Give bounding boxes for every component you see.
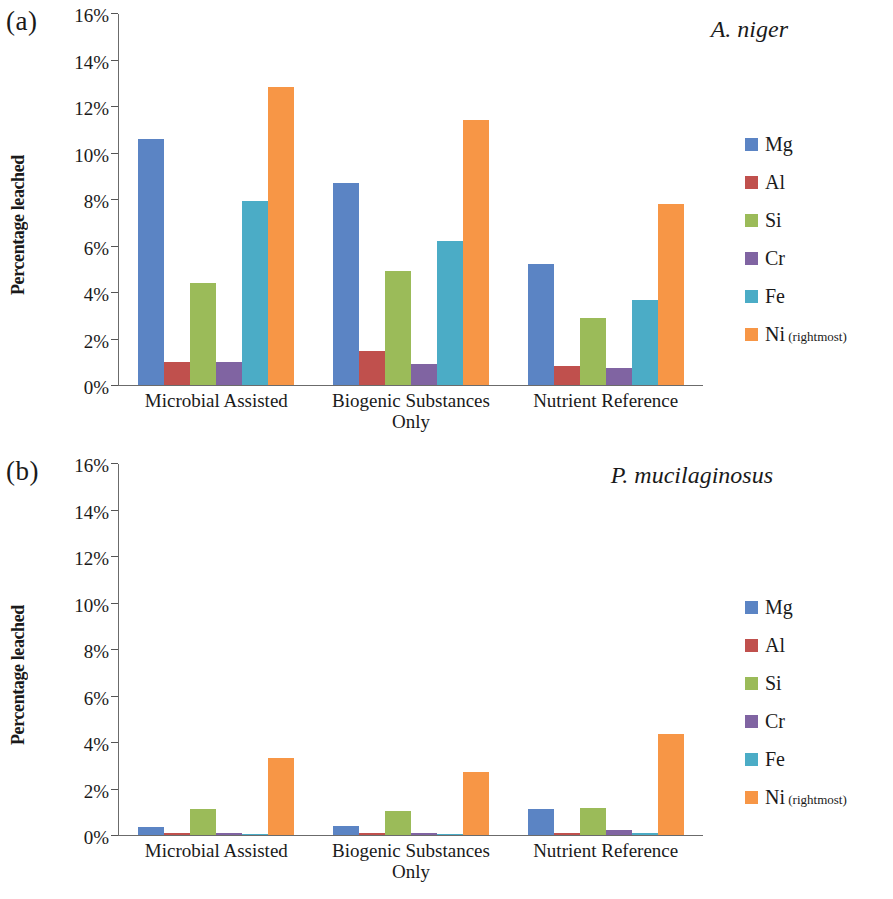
x-axis-category-labels-a: Microbial AssistedBiogenic Substances On… [119, 390, 703, 433]
legend-item-al[interactable]: Al [745, 163, 885, 201]
legend-swatch-icon [745, 328, 758, 341]
x-axis-line [118, 835, 703, 836]
panel-label-b: (b) [6, 456, 39, 487]
bar-cr[interactable] [606, 830, 632, 835]
y-axis-tick-mark [111, 292, 118, 293]
bar-fe[interactable] [437, 834, 463, 835]
y-axis-tick-label: 14% [74, 52, 118, 73]
bar-al[interactable] [359, 833, 385, 835]
bar-si[interactable] [385, 811, 411, 835]
legend-swatch-icon [745, 176, 758, 189]
y-axis-tick-label: 6% [84, 688, 118, 709]
legend-item-fe[interactable]: Fe [745, 277, 885, 315]
legend-swatch-icon [745, 753, 758, 766]
bar-group [314, 464, 509, 835]
y-axis-tick-label: 16% [74, 455, 118, 476]
legend-item-al[interactable]: Al [745, 626, 885, 664]
y-axis-tick: 2% [40, 331, 118, 349]
bar-al[interactable] [164, 362, 190, 385]
bar-mg[interactable] [528, 809, 554, 835]
bar-mg[interactable] [333, 826, 359, 835]
bar-al[interactable] [359, 351, 385, 385]
y-axis-tick-mark [111, 696, 118, 697]
legend-label: Ni (rightmost) [765, 786, 847, 809]
bar-ni[interactable] [658, 204, 684, 385]
legend-label: Si [765, 672, 782, 695]
legend-item-cr[interactable]: Cr [745, 702, 885, 740]
x-axis-category-label: Nutrient Reference [508, 390, 703, 433]
y-axis-tick: 14% [40, 502, 118, 520]
y-axis-tick: 16% [40, 5, 118, 23]
legend-item-si[interactable]: Si [745, 664, 885, 702]
legend-swatch-icon [745, 214, 758, 227]
y-axis-tick-label: 4% [84, 734, 118, 755]
bar-si[interactable] [190, 809, 216, 835]
y-axis-tick-label: 8% [84, 191, 118, 212]
bar-si[interactable] [190, 283, 216, 385]
bar-ni[interactable] [463, 772, 489, 835]
bar-si[interactable] [580, 318, 606, 385]
bar-cr[interactable] [216, 833, 242, 835]
y-axis-tick: 16% [40, 455, 118, 473]
legend-label-suffix: (rightmost) [785, 329, 847, 344]
legend-label: Mg [765, 133, 793, 156]
plot-area-a: 16%14%12%10%8%6%4%2%0% Microbial Assiste… [40, 14, 730, 394]
y-axis-tick-mark [111, 385, 118, 386]
bar-mg[interactable] [528, 264, 554, 385]
bar-fe[interactable] [632, 833, 658, 835]
bar-groups-a [119, 14, 703, 385]
legend-item-si[interactable]: Si [745, 201, 885, 239]
legend-label: Fe [765, 748, 785, 771]
legend-swatch-icon [745, 677, 758, 690]
bar-cr[interactable] [216, 362, 242, 385]
bar-mg[interactable] [138, 139, 164, 385]
bar-cr[interactable] [411, 364, 437, 385]
y-axis-tick: 12% [40, 548, 118, 566]
y-axis-tick: 8% [40, 191, 118, 209]
bar-al[interactable] [164, 833, 190, 835]
y-axis-tick: 6% [40, 688, 118, 706]
bar-mg[interactable] [333, 183, 359, 385]
x-axis-category-label: Microbial Assisted [119, 390, 314, 433]
legend-label: Fe [765, 285, 785, 308]
y-axis-title-a: Percentage leached [8, 120, 38, 330]
bar-fe[interactable] [632, 300, 658, 385]
legend-item-ni[interactable]: Ni (rightmost) [745, 315, 885, 353]
y-axis-tick-mark [111, 603, 118, 604]
legend-a: MgAlSiCrFeNi (rightmost) [745, 125, 885, 353]
y-axis-tick: 4% [40, 734, 118, 752]
legend-label: Mg [765, 596, 793, 619]
bar-si[interactable] [385, 271, 411, 385]
bar-ni[interactable] [658, 734, 684, 835]
legend-swatch-icon [745, 791, 758, 804]
y-axis-tick-label: 12% [74, 98, 118, 119]
bar-fe[interactable] [242, 201, 268, 385]
bar-ni[interactable] [268, 87, 294, 385]
y-axis-tick: 0% [40, 377, 118, 395]
legend-item-cr[interactable]: Cr [745, 239, 885, 277]
bar-al[interactable] [554, 833, 580, 835]
bar-group [508, 464, 703, 835]
axis-lines-b [118, 464, 703, 836]
legend-item-fe[interactable]: Fe [745, 740, 885, 778]
bar-cr[interactable] [411, 833, 437, 835]
bar-si[interactable] [580, 808, 606, 835]
bar-ni[interactable] [463, 120, 489, 385]
bar-fe[interactable] [437, 241, 463, 385]
y-axis-tick-label: 12% [74, 548, 118, 569]
panel-b: (b) P. mucilaginosus Percentage leached … [0, 450, 893, 899]
legend-item-ni[interactable]: Ni (rightmost) [745, 778, 885, 816]
x-axis-category-label: Biogenic Substances Only [314, 840, 509, 883]
y-axis-tick-mark [111, 556, 118, 557]
bar-mg[interactable] [138, 827, 164, 835]
bar-ni[interactable] [268, 758, 294, 835]
bar-al[interactable] [554, 366, 580, 385]
legend-item-mg[interactable]: Mg [745, 588, 885, 626]
bar-group [119, 464, 314, 835]
y-axis-tick-mark [111, 463, 118, 464]
bar-group [119, 14, 314, 385]
bar-fe[interactable] [242, 834, 268, 835]
x-axis-category-label: Nutrient Reference [508, 840, 703, 883]
legend-item-mg[interactable]: Mg [745, 125, 885, 163]
bar-cr[interactable] [606, 368, 632, 385]
